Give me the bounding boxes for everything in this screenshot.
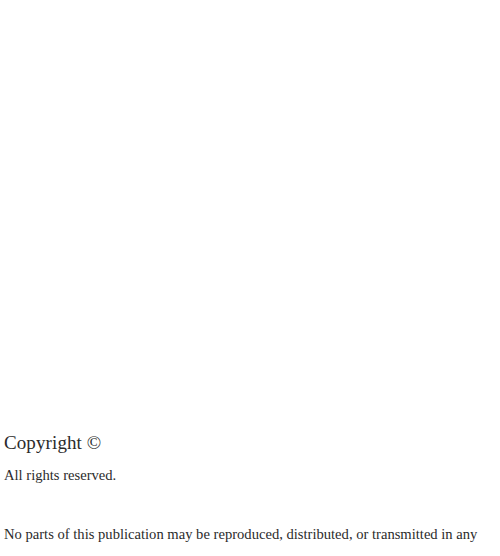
copyright-notice: No parts of this publication may be repr… bbox=[4, 486, 498, 556]
copyright-page: Copyright © All rights reserved. No part… bbox=[0, 0, 500, 556]
notice-line: No parts of this publication may be repr… bbox=[4, 525, 498, 545]
copyright-heading: Copyright © bbox=[4, 431, 498, 455]
all-rights-reserved-text: All rights reserved. bbox=[4, 466, 498, 486]
copyright-block: Copyright © All rights reserved. No part… bbox=[4, 431, 498, 556]
